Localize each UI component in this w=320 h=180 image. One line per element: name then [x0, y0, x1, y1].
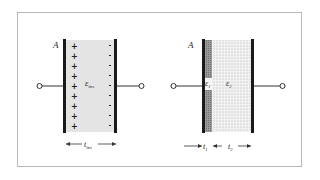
- t1-label: t1: [203, 142, 207, 152]
- left-terminal-a: [37, 84, 42, 89]
- capacitor-diagram: + + + + + + + + + A εins tins: [0, 0, 320, 180]
- svg-text:+: +: [71, 122, 78, 131]
- right-terminal-a: [171, 84, 176, 89]
- left-plate-negative: [114, 39, 117, 133]
- svg-text:+: +: [71, 82, 78, 91]
- plus-charges: + + + + + + + + +: [71, 42, 78, 131]
- svg-text:+: +: [71, 72, 78, 81]
- svg-text:+: +: [71, 92, 78, 101]
- svg-text:+: +: [71, 102, 78, 111]
- svg-text:+: +: [71, 112, 78, 121]
- right-capacitor: A ε1 ε2 t1 t2: [171, 39, 285, 152]
- right-terminal-b: [280, 84, 285, 89]
- right-plate-right: [251, 39, 254, 133]
- right-area-label: A: [187, 40, 194, 50]
- left-plate-positive: [63, 39, 66, 133]
- left-thickness-label: tins: [84, 140, 92, 150]
- svg-text:+: +: [71, 42, 78, 51]
- svg-text:+: +: [71, 62, 78, 71]
- right-layer2-dielectric: [212, 40, 251, 132]
- left-capacitor: + + + + + + + + + A εins tins: [37, 39, 144, 150]
- left-terminal-b: [139, 84, 144, 89]
- left-area-label: A: [52, 40, 59, 50]
- svg-text:+: +: [71, 52, 78, 61]
- t2-label: t2: [228, 142, 233, 152]
